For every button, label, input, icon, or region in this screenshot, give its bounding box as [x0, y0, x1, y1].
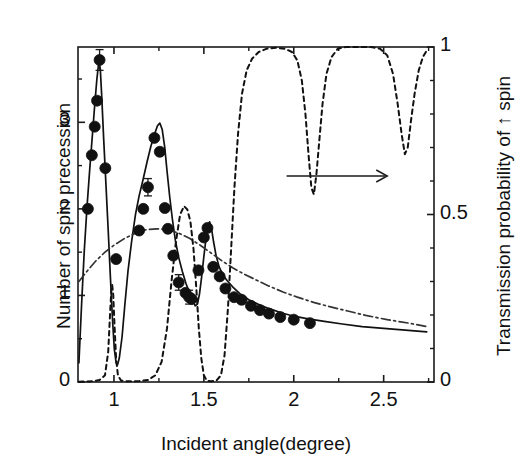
data-point [288, 314, 299, 325]
data-point [92, 95, 103, 106]
data-point [154, 146, 165, 157]
y-tick-label: 3 [20, 108, 70, 131]
y2-tick-label: 1 [440, 33, 500, 56]
data-point [149, 132, 160, 143]
data-point [220, 283, 231, 294]
data-point [263, 308, 274, 319]
x-tick-label: 2 [264, 388, 324, 411]
data-point [193, 265, 204, 276]
data-point [275, 312, 286, 323]
data-point [82, 203, 93, 214]
data-point [89, 121, 100, 132]
x-axis-label: Incident angle(degree) [78, 433, 434, 455]
x-tick-label: 1.5 [174, 388, 234, 411]
series-line-3 [79, 47, 427, 382]
x-tick-label: 1 [84, 388, 144, 411]
y2-tick-label: 0.5 [440, 201, 500, 224]
data-point [304, 318, 315, 329]
chart-figure: Number of spin precession Transmission p… [0, 0, 528, 469]
x-tick-label: 2.5 [354, 388, 414, 411]
data-point [173, 277, 184, 288]
data-point [134, 225, 145, 236]
data-point [168, 250, 179, 261]
data-point [208, 261, 219, 272]
data-point [100, 163, 111, 174]
data-point [111, 254, 122, 265]
data-point [186, 293, 197, 304]
y-tick-label: 0 [20, 368, 70, 391]
y-tick-label: 1 [20, 281, 70, 304]
data-point [142, 182, 153, 193]
y-tick-label: 2 [20, 195, 70, 218]
data-point [159, 203, 170, 214]
data-point [138, 203, 149, 214]
data-point [202, 222, 213, 233]
series-line-1 [79, 62, 427, 365]
data-point [86, 150, 97, 161]
data-point [236, 294, 247, 305]
y2-tick-label: 0 [440, 368, 500, 391]
data-point [94, 54, 105, 65]
plot-frame [78, 47, 434, 382]
data-point [162, 223, 173, 234]
data-point [214, 271, 225, 282]
